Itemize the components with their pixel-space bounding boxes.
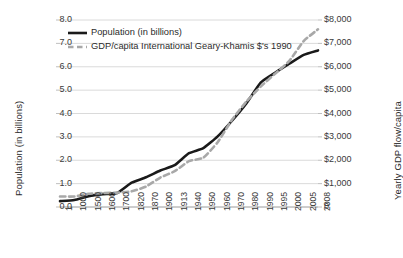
x-axis-tick-label: 2005: [308, 192, 318, 211]
x-axis-tick-label: 1900: [164, 192, 174, 211]
x-axis-tick-label: 1950: [207, 192, 217, 211]
x-axis-tick-label: 1995: [279, 192, 289, 211]
y-axis-right-tick-label: $8,000: [324, 14, 352, 24]
series-line-2: [60, 29, 318, 196]
y-axis-right-tick-label: $5,000: [324, 84, 352, 94]
x-axis-tick-label: 1990: [265, 192, 275, 211]
y-axis-left-tick-label: 5.0: [59, 84, 72, 94]
x-axis-tick-label: 1970: [236, 192, 246, 211]
y-axis-right-tick-label: $2,000: [324, 154, 352, 164]
legend-label-2: GDP/capita International Geary-Khamis $'…: [91, 41, 292, 51]
y-axis-left-tick-label: 2.0: [59, 154, 72, 164]
y-axis-left-tick-label: 1.0: [59, 178, 72, 188]
y-axis-right-tick-label: $7,000: [324, 37, 352, 47]
x-axis-tick-label: 1000: [78, 192, 88, 211]
y-axis-left-tick-label: 8.0: [59, 14, 72, 24]
x-axis-tick-label: 1820: [136, 192, 146, 211]
y-axis-right-tick-label: $1,000: [324, 178, 352, 188]
y-axis-left-tick-label: 6.0: [59, 61, 72, 71]
y-axis-left-tick-label: 7.0: [59, 37, 72, 47]
legend-label-1: Population (in billions): [91, 27, 182, 37]
y-axis-right-tick-label: $6,000: [324, 61, 352, 71]
x-axis-tick-label: 1913: [179, 192, 189, 211]
y-axis-right-tick-label: $3,000: [324, 131, 352, 141]
x-axis-tick-label: 2008: [322, 192, 332, 211]
series-line-1: [60, 50, 318, 201]
x-axis-tick-label: 1700: [121, 192, 131, 211]
y-axis-left-tick-label: 3.0: [59, 131, 72, 141]
x-axis-tick-label: 1500: [93, 192, 103, 211]
x-axis-tick-label: 1600: [107, 192, 117, 211]
y-axis-right-tick-label: $4,000: [324, 108, 352, 118]
x-axis-tick-label: 1960: [222, 192, 232, 211]
x-axis-tick-label: 1940: [193, 192, 203, 211]
x-axis-tick-label: 1870: [150, 192, 160, 211]
x-axis-tick-label: 1: [64, 206, 74, 211]
y-axis-left-tick-label: 4.0: [59, 108, 72, 118]
x-axis-tick-label: 1980: [250, 192, 260, 211]
x-axis-tick-label: 2000: [293, 192, 303, 211]
